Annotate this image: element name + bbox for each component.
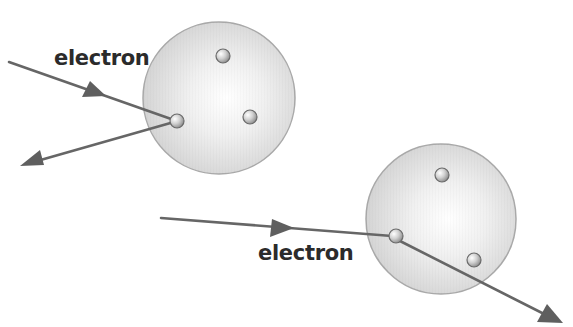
atom-1 [143, 22, 295, 174]
particle [216, 49, 230, 63]
particle-collision-1 [170, 114, 184, 128]
atom-2 [366, 144, 516, 294]
particle [435, 168, 449, 182]
electron-label-2: electron [258, 241, 354, 265]
outgoing-electron-track-1 [30, 122, 174, 163]
particle-collision-2 [389, 229, 403, 243]
electron-label-1: electron [54, 46, 150, 70]
arrowhead-icon [270, 219, 294, 237]
particle [467, 253, 481, 267]
electron-scattering-diagram: electron electron [0, 0, 573, 327]
particle [243, 110, 257, 124]
arrowhead-icon [20, 150, 44, 166]
